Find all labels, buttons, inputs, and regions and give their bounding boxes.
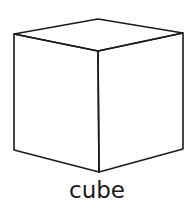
cube-left-face: [14, 34, 99, 172]
cube-right-face: [98, 33, 183, 172]
cube-label: cube: [0, 177, 194, 203]
cube-top-face: [14, 19, 183, 51]
